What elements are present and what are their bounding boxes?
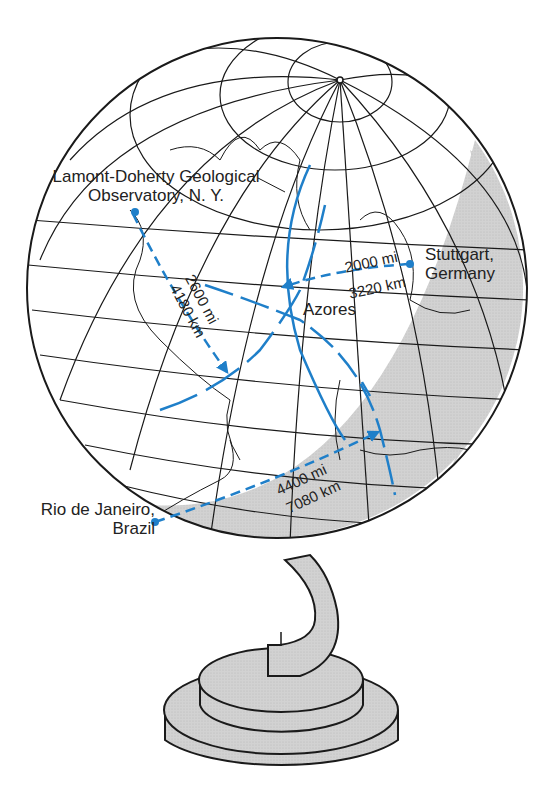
label-lamont-line1: Lamont-Doherty Geological [46,167,266,186]
label-rio-line2: Brazil [25,519,155,538]
globe-stand [164,555,398,765]
label-rio-line1: Rio de Janeiro, [25,500,155,519]
globe-diagram: Lamont-Doherty Geological Observatory, N… [0,0,552,798]
label-stuttgart-line1: Stuttgart, [425,245,495,264]
globe-illustration [0,0,552,798]
label-rio: Rio de Janeiro, Brazil [25,500,155,538]
marker-stuttgart [406,260,414,268]
label-stuttgart-line2: Germany [425,264,495,283]
label-lamont: Lamont-Doherty Geological Observatory, N… [46,167,266,205]
label-azores: Azores [303,300,356,319]
label-lamont-line2: Observatory, N. Y. [46,186,266,205]
marker-lamont [131,208,139,216]
label-stuttgart: Stuttgart, Germany [425,245,495,283]
